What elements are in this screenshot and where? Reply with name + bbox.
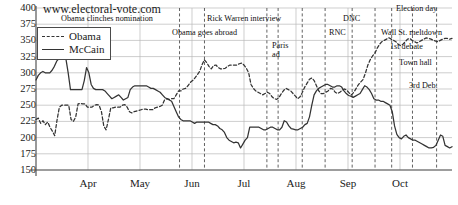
x-tick-jun: Jun xyxy=(184,178,199,189)
legend-entry-obama: Obama xyxy=(42,30,104,43)
event-label-obama-clinches-nomination: Obama clinches nomination xyxy=(61,14,153,23)
event-label-dnc: DNC xyxy=(343,14,360,23)
x-tick-apr: Apr xyxy=(79,178,96,189)
x-tick-oct: Oct xyxy=(392,178,408,189)
legend-entry-mccain: McCain xyxy=(42,43,104,56)
event-label-rick-warren-interview: Rick Warren interview xyxy=(207,14,281,23)
legend-key-dashed-icon xyxy=(42,36,64,38)
event-label-3rd-deb: 3rd Deb. xyxy=(409,81,438,90)
chart-root: 400375350325300275250225200175150 www.el… xyxy=(0,0,458,205)
x-tick-sep: Sep xyxy=(340,178,357,189)
legend-key-solid-icon xyxy=(42,49,64,51)
event-label-paris-ad: Paris ad xyxy=(272,41,296,59)
event-label-wall-st-meltdown: Wall St. meltdown xyxy=(381,28,442,37)
x-tick-may: May xyxy=(130,178,150,189)
event-label-town-hall: Town hall xyxy=(399,58,432,67)
event-label-rnc: RNC xyxy=(329,28,346,37)
x-tick-aug: Aug xyxy=(287,178,306,189)
legend-label-obama: Obama xyxy=(69,31,101,42)
event-label-obama-goes-abroad: Obama goes abroad xyxy=(172,28,237,37)
legend-label-mccain: McCain xyxy=(69,44,104,55)
event-label-election-day: Election day xyxy=(396,4,437,13)
event-label-1st-debate: 1st debate xyxy=(390,42,423,51)
chart-legend: Obama McCain xyxy=(37,27,111,60)
x-tick-jul: Jul xyxy=(238,178,251,189)
